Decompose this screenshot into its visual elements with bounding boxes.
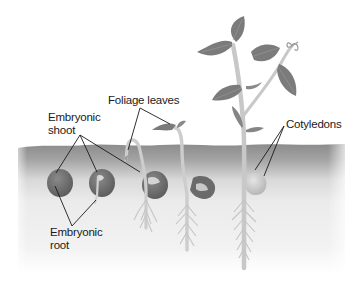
label-embryonic-root: Embryonic root: [50, 226, 103, 252]
label-embryonic-root-line2: root: [50, 239, 103, 252]
label-cotyledons: Cotyledons: [286, 118, 342, 131]
label-foliage-leaves: Foliage leaves: [108, 94, 179, 107]
label-embryonic-shoot-line2: shoot: [48, 124, 101, 137]
label-embryonic-shoot-line1: Embryonic: [48, 111, 101, 124]
label-embryonic-shoot: Embryonic shoot: [48, 111, 101, 137]
label-embryonic-root-line1: Embryonic: [50, 226, 103, 239]
stage-1-seed: [47, 169, 73, 197]
